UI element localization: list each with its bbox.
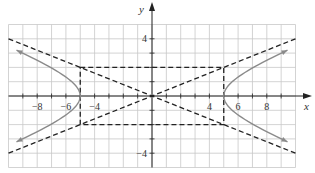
x-tick-label: −8 <box>32 101 43 112</box>
x-tick-label: −4 <box>89 101 100 112</box>
hyperbola-plot: −8−6−44684−4 x y <box>0 0 315 173</box>
y-tick-label: 4 <box>142 33 147 44</box>
y-tick-label: −4 <box>136 148 147 159</box>
x-tick-label: 8 <box>264 101 269 112</box>
y-axis-label: y <box>138 3 144 15</box>
x-axis-label: x <box>303 100 309 112</box>
x-tick-label: −6 <box>61 101 72 112</box>
x-tick-label: 6 <box>236 101 241 112</box>
x-tick-label: 4 <box>207 101 212 112</box>
